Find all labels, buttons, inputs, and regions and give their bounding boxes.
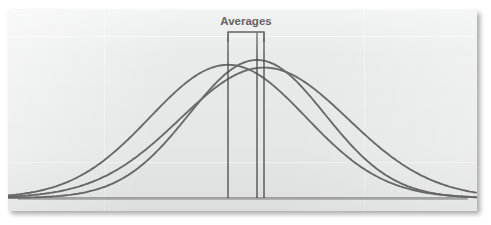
bell-curve-plot [8,10,477,211]
paper-sheet: Averages [8,10,477,211]
averages-bracket [228,32,264,42]
bell-curve-1 [8,65,476,197]
figure-screenshot: Averages [0,0,491,225]
chart-title: Averages [186,15,306,27]
